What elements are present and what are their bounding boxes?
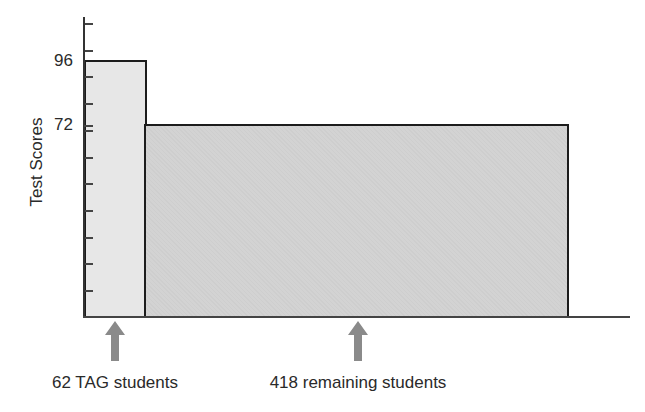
y-tick: [85, 263, 93, 265]
arrow-up-icon: [105, 321, 125, 361]
y-tick-label-96: 96: [54, 51, 73, 71]
category-label-remaining: 418 remaining students: [270, 373, 447, 393]
y-tick: [85, 50, 93, 52]
y-tick: [85, 76, 93, 78]
arrow-up-icon: [348, 321, 368, 361]
y-axis-label: Test Scores: [27, 118, 47, 207]
bar-tag-students: [84, 60, 147, 317]
x-axis-line: [83, 316, 630, 318]
y-tick: [85, 130, 93, 132]
y-tick-label-72: 72: [54, 115, 73, 135]
y-tick-72: [84, 125, 93, 127]
y-tick: [85, 23, 93, 25]
y-tick: [85, 210, 93, 212]
y-tick: [85, 183, 93, 185]
category-label-tag: 62 TAG students: [52, 373, 178, 393]
y-axis-line: [83, 17, 85, 317]
y-tick: [85, 290, 93, 292]
y-tick: [85, 237, 93, 239]
bar-remaining-students: [144, 124, 569, 317]
y-tick: [85, 103, 93, 105]
y-tick: [85, 157, 93, 159]
